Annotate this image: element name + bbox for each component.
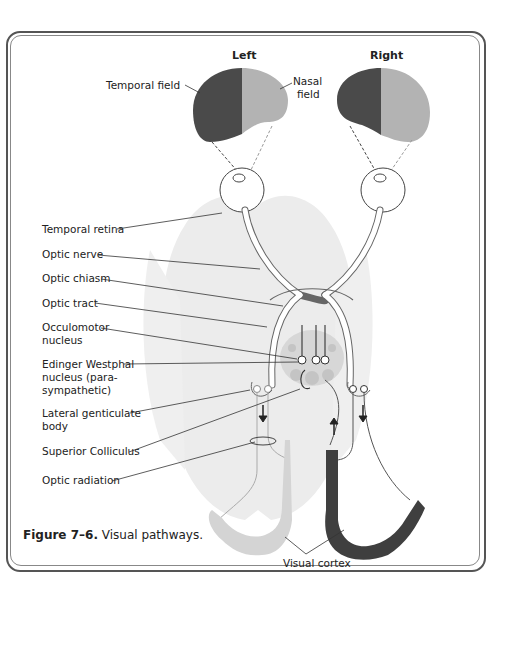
left-eye-header: Left [232, 49, 257, 62]
optic-nerve-label: Optic nerve [42, 248, 103, 261]
right-visual-cortex [325, 450, 425, 560]
nasal-field-label-1: Nasal [293, 75, 322, 88]
occulomotor-label-1: Occulomotor [42, 321, 109, 334]
optic-radiation-label: Optic radiation [42, 474, 120, 487]
edinger-label-2: nucleus (para- [42, 371, 118, 384]
optic-tract-label: Optic tract [42, 297, 98, 310]
occulomotor-label-2: nucleus [42, 334, 83, 347]
right-visual-field [337, 68, 430, 142]
lgb-label-1: Lateral genticulate [42, 407, 141, 420]
temporal-field-label: Temporal field [106, 79, 180, 92]
temporal-retina-label: Temporal retina [42, 223, 124, 236]
visual-cortex-label: Visual cortex [283, 557, 351, 570]
figure-title: Visual pathways. [98, 528, 203, 542]
figure-caption: Figure 7–6. Visual pathways. [23, 528, 203, 542]
figure-number: Figure 7–6. [23, 528, 98, 542]
right-eye-header: Right [370, 49, 403, 62]
optic-chiasm-label: Optic chiasm [42, 272, 111, 285]
edinger-label-3: sympathetic) [42, 384, 111, 397]
edinger-label-1: Edinger Westphal [42, 358, 134, 371]
nasal-field-label-2: field [297, 88, 320, 101]
lgb-label-2: body [42, 420, 68, 433]
left-visual-field [193, 68, 288, 142]
superior-colliculus-label: Superior Colliculus [42, 445, 140, 458]
